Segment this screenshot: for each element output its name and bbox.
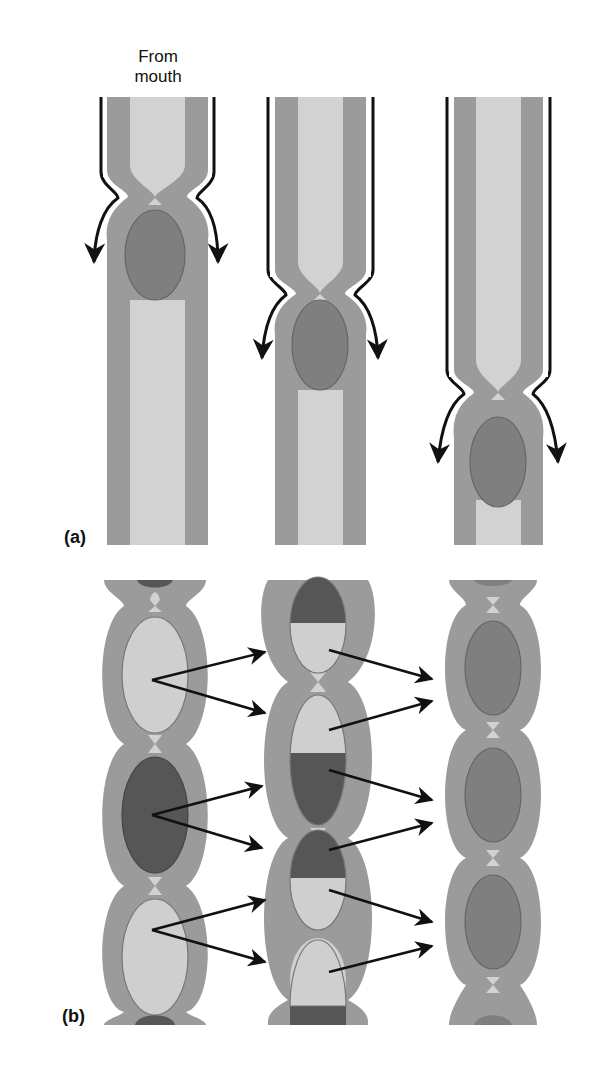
caption-line-2: mouth (118, 67, 198, 87)
mixed-chyme (465, 621, 521, 715)
light-chyme (122, 899, 188, 1015)
light-chyme (122, 617, 188, 733)
bolus (292, 300, 348, 390)
caption-line-1: From (118, 47, 198, 67)
from-mouth-label: From mouth (118, 47, 198, 87)
bolus (470, 417, 526, 507)
panel-b-label: (b) (62, 1006, 85, 1027)
panel-a-label: (a) (64, 527, 86, 548)
segmentation-column-1 (102, 580, 208, 1025)
peristalsis-tube-3 (438, 97, 558, 545)
peristalsis-segmentation-diagram (0, 0, 596, 1070)
mixed-chyme (465, 875, 521, 969)
peristalsis-tube-2 (262, 97, 378, 545)
segmentation-column-3 (445, 580, 541, 1025)
bolus (125, 210, 185, 300)
segmentation-column-2 (261, 575, 375, 1031)
mixed-chyme (465, 748, 521, 842)
peristalsis-tube-1 (94, 97, 218, 545)
